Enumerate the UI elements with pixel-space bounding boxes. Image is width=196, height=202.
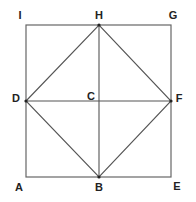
vertex-F: [169, 99, 172, 102]
label-A: A: [15, 181, 23, 193]
label-B: B: [95, 181, 103, 193]
label-G: G: [169, 9, 178, 21]
label-F: F: [176, 92, 183, 104]
label-C: C: [87, 90, 95, 102]
geometry-diagram: I H G D C F A B E: [0, 0, 196, 202]
vertex-D: [24, 99, 27, 102]
vertex-B: [97, 175, 100, 178]
label-I: I: [18, 9, 21, 21]
vertex-H: [97, 23, 100, 26]
label-D: D: [12, 92, 20, 104]
label-H: H: [95, 9, 103, 21]
label-E: E: [173, 180, 180, 192]
